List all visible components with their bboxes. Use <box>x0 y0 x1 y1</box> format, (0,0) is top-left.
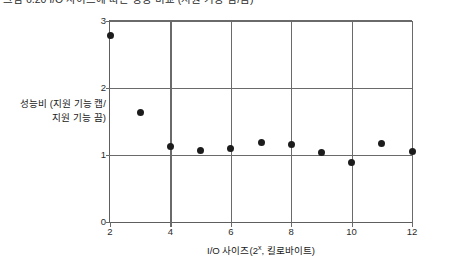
data-point <box>409 148 416 155</box>
y-axis-tick-label: 0 <box>94 216 106 227</box>
gridline-horizontal <box>110 88 412 89</box>
data-point <box>197 147 204 154</box>
gridline-horizontal <box>110 155 412 156</box>
gridline-horizontal <box>110 21 412 22</box>
data-point <box>107 32 114 39</box>
x-axis-label-base: I/O 사이즈(2 <box>207 245 258 256</box>
gridline-vertical <box>170 21 171 222</box>
gridline-vertical <box>352 21 353 222</box>
y-axis-tick <box>106 88 111 89</box>
data-point <box>348 159 355 166</box>
data-point <box>258 139 265 146</box>
y-axis-tick <box>106 155 111 156</box>
data-point <box>167 143 174 150</box>
x-axis-tick-label: 12 <box>399 226 425 237</box>
x-axis-tick-label: 2 <box>97 226 123 237</box>
x-axis-tick-label: 8 <box>278 226 304 237</box>
x-axis-label-tail: , 킬로바이트) <box>261 245 315 256</box>
y-axis-tick <box>106 21 111 22</box>
data-point <box>137 109 144 116</box>
y-axis-tick-label: 2 <box>94 82 106 93</box>
figure-caption: 그림 6.20 I/O 사이즈에 따른 성능 비교 (지원 기능 켬/끔) <box>0 0 449 7</box>
y-axis-tick-label: 1 <box>94 149 106 160</box>
x-axis-tick-label: 6 <box>218 226 244 237</box>
data-point <box>227 145 234 152</box>
x-axis-tick-label: 10 <box>339 226 365 237</box>
gridline-vertical <box>231 21 232 222</box>
x-axis-tick-label: 4 <box>157 226 183 237</box>
y-axis-tick-label: 3 <box>94 15 106 26</box>
y-axis-tick <box>106 222 111 223</box>
chart-figure: 그림 6.20 I/O 사이즈에 따른 성능 비교 (지원 기능 켬/끔) 성능… <box>0 0 449 266</box>
data-point <box>378 140 385 147</box>
gridline-vertical <box>412 21 413 222</box>
data-point <box>288 141 295 148</box>
y-axis-line <box>109 20 110 223</box>
y-axis-label-line1: 성능비 (지원 기능 캡/ <box>20 98 106 109</box>
x-axis-label: I/O 사이즈(2x, 킬로바이트) <box>110 243 412 257</box>
y-axis-label-line2: 지원 기능 끔) <box>52 112 106 123</box>
y-axis-label: 성능비 (지원 기능 캡/ 지원 기능 끔) <box>2 97 106 125</box>
figure-caption-text: 그림 6.20 I/O 사이즈에 따른 성능 비교 (지원 기능 켬/끔) <box>3 0 254 6</box>
data-point <box>318 149 325 156</box>
gridline-vertical <box>291 21 292 222</box>
plot-area: 24681012 0123 <box>110 21 412 222</box>
x-axis-line <box>109 222 412 223</box>
